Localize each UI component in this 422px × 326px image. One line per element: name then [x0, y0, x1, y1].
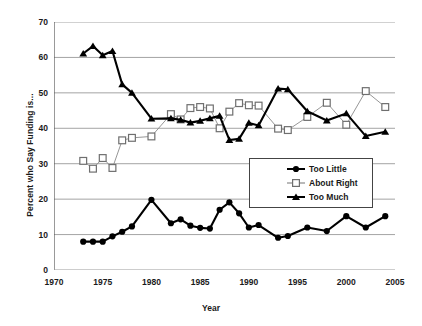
point-marker	[343, 213, 349, 219]
legend-symbol-filled-triangle	[286, 191, 306, 203]
point-marker	[90, 165, 97, 172]
point-marker	[99, 155, 106, 162]
point-marker	[178, 216, 184, 222]
point-marker	[323, 99, 330, 106]
point-marker	[109, 47, 117, 54]
point-marker	[148, 133, 155, 140]
point-marker	[109, 165, 116, 172]
point-marker	[285, 233, 291, 239]
point-marker	[197, 225, 203, 231]
plot-area	[54, 22, 395, 270]
y-tick-30: 30	[22, 159, 48, 169]
point-marker	[197, 104, 204, 111]
legend-label-about-right: About Right	[309, 178, 358, 188]
point-marker	[246, 224, 252, 230]
x-tick-1980: 1980	[131, 277, 171, 287]
point-marker	[362, 88, 369, 95]
point-marker	[187, 105, 194, 112]
chart-legend: Too Little About Right Too Much	[249, 158, 373, 208]
legend-item-too-much: Too Much	[250, 190, 372, 204]
point-marker	[168, 220, 174, 226]
point-marker	[109, 233, 115, 239]
point-marker	[80, 157, 87, 164]
point-marker	[255, 102, 262, 109]
y-tick-20: 20	[22, 194, 48, 204]
point-marker	[226, 108, 233, 115]
x-tick-1975: 1975	[83, 277, 123, 287]
point-marker	[129, 223, 135, 229]
y-tick-40: 40	[22, 123, 48, 133]
x-tick-2000: 2000	[326, 277, 366, 287]
x-tick-1970: 1970	[34, 277, 74, 287]
point-marker	[226, 199, 232, 205]
y-tick-60: 60	[22, 52, 48, 62]
point-marker	[256, 222, 262, 228]
point-marker	[148, 197, 154, 203]
point-marker	[324, 228, 330, 234]
point-marker	[284, 127, 291, 134]
point-marker	[275, 235, 281, 241]
point-marker	[342, 110, 350, 117]
point-marker	[80, 239, 86, 245]
x-tick-2005: 2005	[375, 277, 415, 287]
point-marker	[236, 210, 242, 216]
legend-item-too-little: Too Little	[250, 162, 372, 176]
point-marker	[217, 207, 223, 213]
chart-container: Percent who Say Funding is... Year 01020…	[0, 0, 422, 326]
point-marker	[100, 239, 106, 245]
y-tick-0: 0	[22, 265, 48, 275]
point-marker	[236, 100, 243, 107]
point-marker	[245, 102, 252, 109]
point-marker	[304, 114, 311, 121]
point-marker	[119, 229, 125, 235]
point-marker	[89, 42, 97, 49]
y-tick-10: 10	[22, 230, 48, 240]
y-tick-70: 70	[22, 17, 48, 27]
point-marker	[363, 224, 369, 230]
legend-symbol-open-square	[286, 177, 306, 189]
legend-symbol-filled-circle	[286, 163, 306, 175]
point-marker	[118, 81, 126, 88]
point-marker	[382, 104, 389, 111]
point-marker	[382, 213, 388, 219]
legend-label-too-much: Too Much	[309, 192, 349, 202]
legend-label-too-little: Too Little	[309, 164, 347, 174]
point-marker	[207, 225, 213, 231]
point-marker	[343, 121, 350, 128]
x-axis-title: Year	[0, 303, 422, 313]
point-marker	[304, 224, 310, 230]
point-marker	[119, 137, 126, 144]
plot-svg	[54, 22, 395, 270]
y-tick-50: 50	[22, 88, 48, 98]
x-tick-1995: 1995	[278, 277, 318, 287]
x-tick-1985: 1985	[180, 277, 220, 287]
point-marker	[275, 125, 282, 132]
point-marker	[206, 105, 213, 112]
point-marker	[216, 125, 223, 132]
point-marker	[187, 223, 193, 229]
legend-item-about-right: About Right	[250, 176, 372, 190]
point-marker	[90, 239, 96, 245]
x-tick-1990: 1990	[229, 277, 269, 287]
point-marker	[129, 134, 136, 141]
